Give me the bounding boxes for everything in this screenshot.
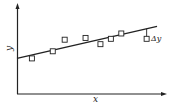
data-point-square-icon — [29, 56, 34, 61]
scatter-chart — [0, 0, 174, 108]
data-point-square-icon — [83, 35, 88, 40]
delta-y-annotation: Δy — [151, 35, 161, 43]
axes — [17, 7, 163, 94]
data-point-square-icon — [50, 49, 55, 54]
data-point-square-icon — [62, 37, 67, 42]
fit-line — [17, 26, 157, 58]
data-point-square-icon — [144, 36, 149, 41]
data-point-square-icon — [98, 42, 103, 47]
data-point-square-icon — [119, 31, 124, 36]
x-axis-arrow-icon — [161, 92, 167, 96]
regression-line — [17, 26, 157, 58]
y-axis-arrow-icon — [16, 3, 20, 9]
data-point-square-icon — [108, 36, 113, 41]
data-points — [29, 31, 149, 61]
y-axis-label: y — [5, 46, 14, 51]
x-axis-label: x — [93, 95, 98, 104]
